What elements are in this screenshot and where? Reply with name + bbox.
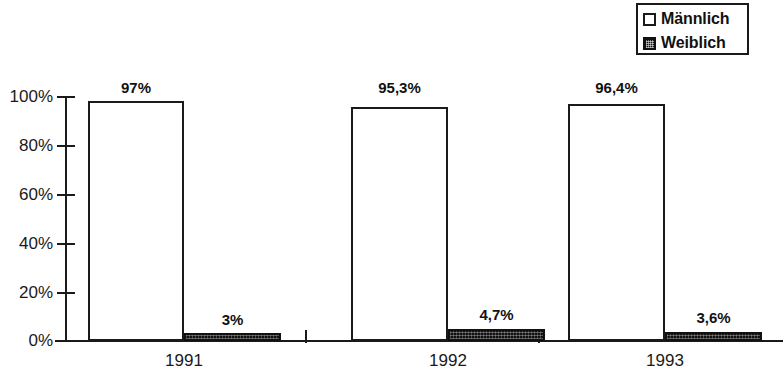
bar-value-1992-maennlich: 95,3%	[351, 80, 448, 95]
y-tick-80	[57, 145, 75, 147]
y-tick-40	[57, 243, 75, 245]
legend-item-weiblich: Weiblich	[643, 31, 743, 55]
bar-1992-maennlich	[351, 107, 448, 341]
bar-value-1991-maennlich: 97%	[88, 80, 184, 95]
bar-1991-weiblich	[184, 333, 281, 341]
bar-value-1991-weiblich: 3%	[184, 312, 281, 327]
legend-item-maennlich: Männlich	[643, 7, 743, 31]
bar-chart: Männlich Weiblich 100% 80% 60% 40% 20% 0…	[0, 0, 783, 379]
legend-label-maennlich: Männlich	[661, 11, 730, 27]
filled-square-icon	[643, 37, 656, 50]
bar-1993-maennlich	[568, 104, 665, 341]
y-tick-20	[57, 292, 75, 294]
bar-value-1992-weiblich: 4,7%	[448, 307, 545, 322]
y-tick-60	[57, 194, 75, 196]
y-tick-100	[57, 96, 75, 98]
bar-1991-maennlich	[88, 101, 184, 341]
legend-label-weiblich: Weiblich	[661, 35, 726, 51]
bar-value-1993-weiblich: 3,6%	[665, 310, 762, 325]
x-axis-label-1991: 1991	[134, 352, 234, 369]
x-axis-label-1992: 1992	[398, 352, 498, 369]
bar-value-1993-maennlich: 96,4%	[568, 80, 665, 95]
bar-1992-weiblich	[448, 329, 545, 341]
y-axis-line	[65, 97, 67, 342]
chart-legend: Männlich Weiblich	[636, 3, 749, 55]
bar-1993-weiblich	[665, 332, 762, 341]
x-axis-label-1993: 1993	[615, 352, 715, 369]
open-square-icon	[643, 13, 656, 26]
x-axis-separator-1	[305, 330, 307, 343]
